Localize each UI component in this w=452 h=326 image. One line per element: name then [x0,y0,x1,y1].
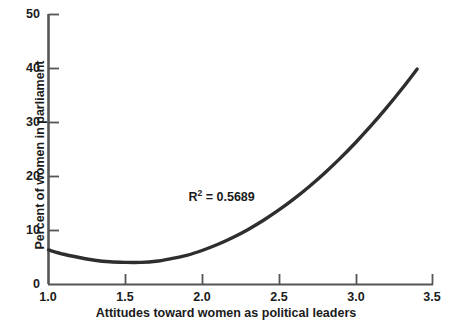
r-squared-annotation: R2 = 0.5689 [189,190,255,204]
x-tick-label-1-0: 1.0 [28,290,68,304]
r-squared-value: = 0.5689 [202,190,254,204]
x-axis-title: Attitudes toward women as political lead… [0,306,452,320]
x-tick-label-2-5: 2.5 [259,290,299,304]
r-squared-base: R [189,190,198,204]
fit-curve [49,69,418,262]
x-axis-ticks [126,274,433,285]
chart-figure: 50 40 30 20 10 0 1.0 1.5 2.0 2.5 3.0 3.5… [0,0,452,326]
y-tick-label-0: 0 [6,277,40,291]
x-tick-label-1-5: 1.5 [105,290,145,304]
plot-area [0,0,452,326]
x-tick-label-3-0: 3.0 [336,290,376,304]
y-tick-label-50: 50 [6,7,40,21]
x-tick-label-2-0: 2.0 [182,290,222,304]
x-tick-label-3-5: 3.5 [412,290,452,304]
y-axis-ticks [49,15,60,231]
y-axis-title: Percent of women in parliament [33,41,47,269]
